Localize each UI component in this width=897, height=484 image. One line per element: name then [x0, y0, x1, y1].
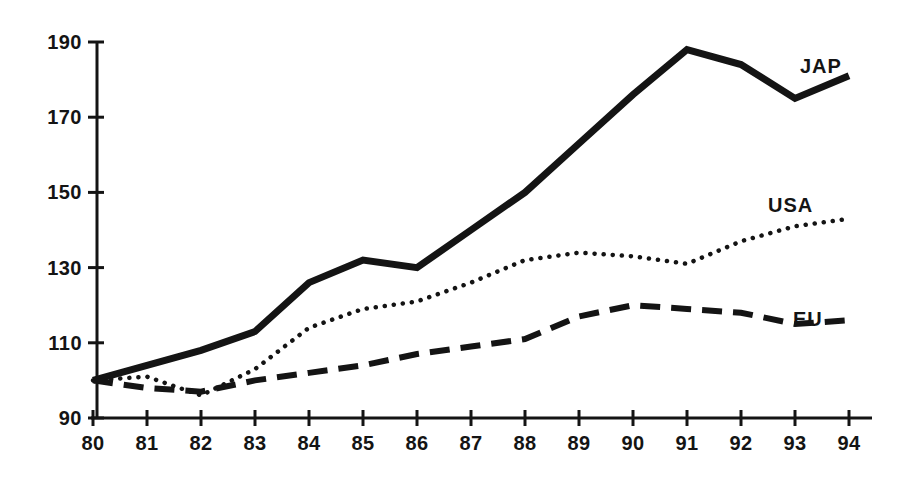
- x-axis-tick-label: 82: [189, 432, 212, 455]
- y-axis-tick-label: 150: [0, 181, 82, 204]
- x-axis-tick-label: 92: [729, 432, 752, 455]
- x-axis-tick-label: 83: [243, 432, 266, 455]
- x-axis-tick-label: 91: [675, 432, 698, 455]
- y-axis-tick-label: 130: [0, 256, 82, 279]
- chart-axes: [88, 42, 872, 426]
- series-label-jap: JAP: [800, 55, 842, 78]
- series-label-eu: EU: [793, 308, 823, 331]
- x-axis-tick-label: 85: [351, 432, 374, 455]
- x-axis-tick-label: 81: [135, 432, 158, 455]
- x-axis-tick-label: 93: [783, 432, 806, 455]
- series-label-usa: USA: [768, 194, 813, 217]
- x-axis-tick-label: 90: [621, 432, 644, 455]
- y-axis-tick-label: 110: [0, 331, 82, 354]
- x-axis-tick-label: 80: [81, 432, 104, 455]
- series-line-usa: [93, 219, 849, 396]
- x-axis-tick-label: 89: [567, 432, 590, 455]
- x-axis-tick-label: 86: [405, 432, 428, 455]
- series-line-jap: [93, 50, 849, 381]
- y-axis-tick-label: 170: [0, 106, 82, 129]
- chart-plot-area: [0, 0, 897, 484]
- x-axis-tick-label: 87: [459, 432, 482, 455]
- chart-series-group: [93, 50, 849, 396]
- x-axis-tick-label: 84: [297, 432, 320, 455]
- y-axis-tick-label: 90: [0, 407, 82, 430]
- x-axis-tick-label: 94: [837, 432, 860, 455]
- y-axis-tick-label: 190: [0, 31, 82, 54]
- chart-figure: 90110130150170190 8081828384858687888990…: [0, 0, 897, 484]
- x-axis-tick-label: 88: [513, 432, 536, 455]
